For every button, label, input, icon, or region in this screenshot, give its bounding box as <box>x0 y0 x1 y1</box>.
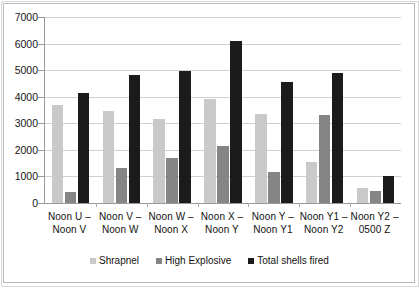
bar-he[interactable] <box>116 168 128 203</box>
x-axis-label-line2: Noon X <box>146 224 197 237</box>
y-axis-tick-label: 2000 <box>2 145 38 155</box>
bar-total[interactable] <box>179 71 191 203</box>
bar-shrapnel[interactable] <box>204 99 216 203</box>
legend-swatch-he <box>156 258 162 264</box>
bar-group <box>45 17 96 203</box>
legend-item[interactable]: Shrapnel <box>90 255 139 266</box>
x-axis-tick <box>350 203 351 207</box>
x-axis-label-line1: Noon Y1 – <box>300 211 348 222</box>
legend-swatch-shrapnel <box>90 258 96 264</box>
y-axis-tick-label: 4000 <box>2 92 38 102</box>
x-axis-label: Noon Y1 –Noon Y2 <box>298 211 349 236</box>
x-axis-label-line2: Noon V <box>44 224 95 237</box>
bar-he[interactable] <box>319 115 331 203</box>
y-axis-tick-label: 7000 <box>2 12 38 22</box>
legend-label: High Explosive <box>165 255 231 266</box>
y-axis-tick-label: 1000 <box>2 171 38 181</box>
x-axis-tick <box>248 203 249 207</box>
bar-he[interactable] <box>370 191 382 203</box>
plot-area <box>44 17 401 204</box>
legend-label: Total shells fired <box>257 255 329 266</box>
x-axis-label: Noon X –Noon Y <box>197 211 248 236</box>
x-axis-label-line1: Noon X – <box>201 211 244 222</box>
legend-label: Shrapnel <box>99 255 139 266</box>
bar-total[interactable] <box>78 93 90 203</box>
x-axis-label: Noon W –Noon X <box>146 211 197 236</box>
bar-total[interactable] <box>281 82 293 203</box>
y-axis-tick-label: 6000 <box>2 39 38 49</box>
chart-screenshot: 01000200030004000500060007000 Noon U –No… <box>0 0 419 287</box>
x-axis-tick <box>96 203 97 207</box>
bar-total[interactable] <box>230 41 242 203</box>
x-axis-label-line2: Noon W <box>95 224 146 237</box>
x-axis-label-line2: Noon Y <box>197 224 248 237</box>
bar-group <box>96 17 147 203</box>
bar-he[interactable] <box>217 146 229 203</box>
legend-swatch-total <box>248 258 254 264</box>
bar-total[interactable] <box>383 176 395 203</box>
y-axis-tick-label: 5000 <box>2 65 38 75</box>
bar-group <box>198 17 249 203</box>
bar-he[interactable] <box>166 158 178 203</box>
x-axis-label: Noon U –Noon V <box>44 211 95 236</box>
bar-shrapnel[interactable] <box>52 105 64 203</box>
bar-shrapnel[interactable] <box>153 119 165 203</box>
x-axis-label: Noon Y2 –0500 Z <box>349 211 400 236</box>
y-axis-tick-label: 3000 <box>2 118 38 128</box>
bar-he[interactable] <box>65 192 77 203</box>
legend-item[interactable]: Total shells fired <box>248 255 329 266</box>
legend-item[interactable]: High Explosive <box>156 255 231 266</box>
x-axis-tick <box>299 203 300 207</box>
bar-shrapnel[interactable] <box>103 111 115 203</box>
x-axis-label-line1: Noon Y2 – <box>351 211 399 222</box>
bar-shrapnel[interactable] <box>306 162 318 203</box>
x-axis-label-line1: Noon Y – <box>252 211 294 222</box>
x-axis-label: Noon V –Noon W <box>95 211 146 236</box>
bar-group <box>248 17 299 203</box>
bar-group <box>147 17 198 203</box>
bar-total[interactable] <box>129 75 141 203</box>
bar-group <box>350 17 401 203</box>
x-axis-label-line1: Noon U – <box>48 211 91 222</box>
x-axis-label-line2: Noon Y1 <box>247 224 298 237</box>
x-axis-tick <box>198 203 199 207</box>
bar-shrapnel[interactable] <box>255 114 267 203</box>
bar-group <box>299 17 350 203</box>
x-axis-label: Noon Y –Noon Y1 <box>247 211 298 236</box>
x-axis-label-line1: Noon W – <box>148 211 193 222</box>
chart-legend: ShrapnelHigh ExplosiveTotal shells fired <box>0 255 419 266</box>
x-axis-label-line1: Noon V – <box>99 211 142 222</box>
x-axis-label-line2: 0500 Z <box>349 224 400 237</box>
x-axis-label-line2: Noon Y2 <box>298 224 349 237</box>
bar-chart: 01000200030004000500060007000 Noon U –No… <box>0 0 419 287</box>
x-axis-tick <box>147 203 148 207</box>
bar-shrapnel[interactable] <box>357 188 369 203</box>
y-axis-tick-label: 0 <box>2 198 38 208</box>
bar-total[interactable] <box>332 73 344 203</box>
bar-he[interactable] <box>268 172 280 203</box>
